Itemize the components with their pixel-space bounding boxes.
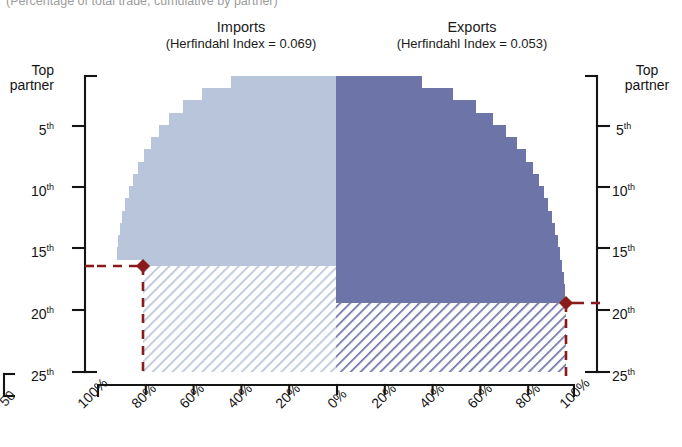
imports-area-hatched bbox=[143, 266, 336, 372]
y-axis-left-tick-5th: 5th bbox=[4, 119, 54, 137]
imports-threshold-guide bbox=[97, 266, 143, 378]
y-left-top-line1: Top bbox=[31, 62, 54, 78]
y-axis-left-tick-10th: 10th bbox=[4, 180, 54, 198]
y-axis-right-tick-5th: 5th bbox=[616, 119, 631, 137]
y-axis-right-tick-15th: 15th bbox=[612, 241, 635, 259]
exports-title-main: Exports bbox=[356, 20, 588, 35]
y-left-tick-25-suffix: th bbox=[46, 367, 54, 377]
y-right-tick-25-num: 25 bbox=[612, 368, 628, 384]
y-left-tick-10-num: 10 bbox=[31, 183, 47, 199]
y-axis-left-tick-20th: 20th bbox=[4, 303, 54, 321]
left-axis-bracket-stub bbox=[0, 372, 16, 402]
exports-area-solid bbox=[336, 76, 566, 303]
y-axis-left-top-partner-label: Top partner bbox=[2, 63, 54, 93]
y-right-tick-10-suffix: th bbox=[628, 182, 636, 192]
y-axis-left-tick-15th: 15th bbox=[4, 241, 54, 259]
x-axis-label-10: 100% bbox=[556, 375, 593, 412]
y-left-tick-15-num: 15 bbox=[31, 244, 47, 260]
y-right-tick-20-suffix: th bbox=[628, 305, 636, 315]
y-right-tick-25-suffix: th bbox=[628, 367, 636, 377]
exports-threshold-guide bbox=[566, 303, 575, 378]
y-right-tick-20-num: 20 bbox=[612, 306, 628, 322]
imports-panel-title: Imports (Herfindahl Index = 0.069) bbox=[136, 20, 346, 51]
y-axis-right-tick-10th: 10th bbox=[612, 180, 635, 198]
exports-area-hatched bbox=[336, 303, 566, 372]
imports-title-subtitle: (Herfindahl Index = 0.069) bbox=[136, 36, 346, 51]
y-axis-right-tick-20th: 20th bbox=[612, 303, 635, 321]
y-axis-right bbox=[585, 70, 625, 378]
y-axis-left bbox=[57, 70, 97, 378]
chart-figure: (Percentage of total trade, cumulative b… bbox=[0, 0, 682, 447]
exports-title-subtitle: (Herfindahl Index = 0.053) bbox=[356, 36, 588, 51]
y-right-tick-15-suffix: th bbox=[628, 243, 636, 253]
y-left-tick-5-suffix: th bbox=[46, 121, 54, 131]
imports-title-main: Imports bbox=[136, 20, 346, 35]
y-left-tick-20-suffix: th bbox=[46, 305, 54, 315]
y-left-tick-20-num: 20 bbox=[31, 306, 47, 322]
y-left-tick-10-suffix: th bbox=[46, 182, 54, 192]
imports-area-solid bbox=[117, 76, 336, 266]
y-right-tick-10-num: 10 bbox=[612, 183, 628, 199]
y-right-top-line2: partner bbox=[625, 77, 669, 93]
cut-off-header: (Percentage of total trade, cumulative b… bbox=[0, 0, 682, 8]
y-axis-right-tick-25th: 25th bbox=[612, 365, 635, 383]
y-left-top-line2: partner bbox=[10, 77, 54, 93]
y-right-top-line1: Top bbox=[636, 62, 659, 78]
y-right-tick-5-suffix: th bbox=[624, 121, 632, 131]
y-axis-right-top-partner-label: Top partner bbox=[615, 63, 679, 93]
y-left-tick-25-num: 25 bbox=[31, 368, 47, 384]
y-right-tick-5-num: 5 bbox=[616, 122, 624, 138]
exports-panel-title: Exports (Herfindahl Index = 0.053) bbox=[356, 20, 588, 51]
y-right-tick-15-num: 15 bbox=[612, 244, 628, 260]
y-left-tick-15-suffix: th bbox=[46, 243, 54, 253]
plot-area bbox=[97, 70, 575, 378]
